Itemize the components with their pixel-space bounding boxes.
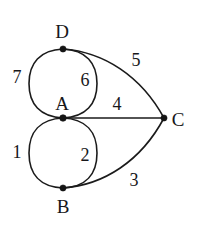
vertex-label-d: D xyxy=(55,22,69,41)
edge-label-1: 1 xyxy=(13,143,22,161)
vertex-dot-b xyxy=(60,185,66,191)
vertex-label-a: A xyxy=(55,94,69,113)
edge-label-4: 4 xyxy=(113,95,122,113)
edge-3-path xyxy=(63,118,164,188)
edge-1-path xyxy=(29,118,63,188)
edge-label-6: 6 xyxy=(81,71,90,89)
vertex-label-b: B xyxy=(57,197,70,216)
edge-label-7: 7 xyxy=(13,68,22,86)
vertex-dot-a xyxy=(60,115,67,122)
edge-label-5: 5 xyxy=(132,51,141,69)
vertex-dot-d xyxy=(60,46,66,52)
vertex-label-c: C xyxy=(172,110,185,129)
edge-label-2: 2 xyxy=(81,146,90,164)
graph-canvas xyxy=(0,0,197,226)
vertex-dot-c xyxy=(161,115,167,121)
edge-label-3: 3 xyxy=(130,171,139,189)
graph-figure: D A B C 7 6 1 2 4 5 3 xyxy=(0,0,197,226)
